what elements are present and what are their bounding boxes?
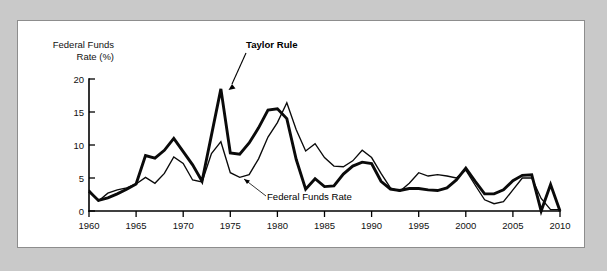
federal-funds-taylor-rule-chart: Federal Funds Rate (%) 20 15 10 5 0 — [18, 21, 584, 247]
x-tick-label-2000: 2000 — [455, 220, 476, 231]
x-tick-label-1980: 1980 — [267, 220, 288, 231]
x-tick-label-1965: 1965 — [126, 220, 147, 231]
annotation-taylor-rule: Taylor Rule — [229, 39, 298, 90]
y-axis-title-group: Federal Funds Rate (%) — [53, 39, 115, 62]
x-tick-label-1990: 1990 — [361, 220, 382, 231]
x-tick-label-2010: 2010 — [549, 220, 570, 231]
x-tick-label-1975: 1975 — [220, 220, 241, 231]
x-tick-label-1995: 1995 — [408, 220, 429, 231]
y-tick-label-10: 10 — [73, 140, 84, 151]
x-tick-label-1985: 1985 — [314, 220, 335, 231]
y-tick-label-20: 20 — [73, 74, 84, 85]
y-axis-title-line2: Rate (%) — [77, 51, 114, 62]
annotation-taylor-rule-leader — [232, 53, 246, 84]
x-tick-label-2005: 2005 — [502, 220, 523, 231]
figure-panel: Federal Funds Rate (%) 20 15 10 5 0 — [17, 20, 585, 248]
annotation-federal-funds-rate-label: Federal Funds Rate — [267, 191, 352, 202]
y-axis-title-line1: Federal Funds — [53, 39, 115, 50]
x-tick-label-1960: 1960 — [78, 220, 99, 231]
annotation-taylor-rule-label: Taylor Rule — [246, 39, 298, 50]
annotation-taylor-rule-arrowhead — [229, 84, 236, 90]
x-tick-label-1970: 1970 — [173, 220, 194, 231]
y-tick-label-15: 15 — [73, 107, 84, 118]
y-tick-label-5: 5 — [79, 173, 84, 184]
y-tick-label-0: 0 — [79, 206, 84, 217]
x-axis: 1960 1965 1970 1975 1980 1985 1990 1995 … — [78, 211, 570, 231]
